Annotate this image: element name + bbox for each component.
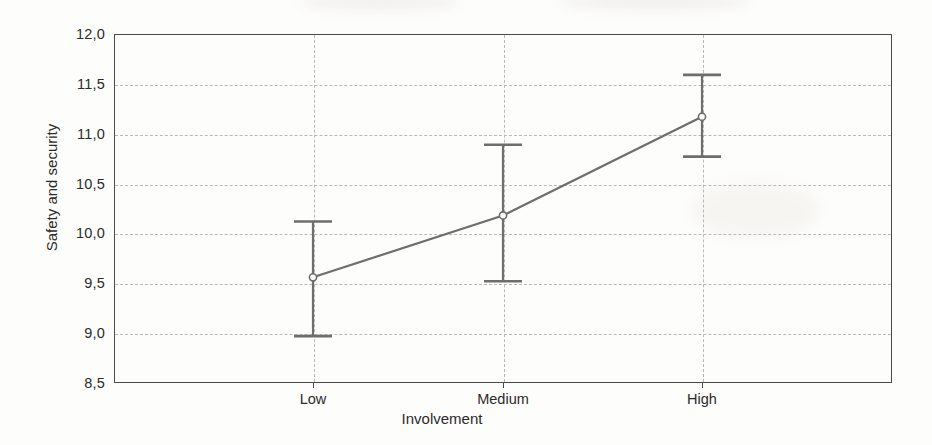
y-axis-tick-label: 11,5 <box>77 76 105 92</box>
gridline-horizontal <box>115 284 891 285</box>
gridline-vertical <box>703 35 704 382</box>
scan-artifact <box>560 0 750 10</box>
x-axis-title: Involvement <box>0 410 932 427</box>
plot-area <box>114 34 892 383</box>
y-axis-tick-label: 9,0 <box>84 325 105 341</box>
x-axis-tick-mark <box>503 383 504 388</box>
scan-artifact <box>300 0 460 10</box>
y-axis-tick-label: 11,0 <box>77 126 105 142</box>
x-axis-tick-mark <box>313 383 314 388</box>
x-axis-title-text: Involvement <box>402 410 483 427</box>
gridline-horizontal <box>115 334 891 335</box>
x-axis-tick-label: High <box>687 391 717 407</box>
gridline-horizontal <box>115 85 891 86</box>
gridline-vertical <box>504 35 505 382</box>
gridline-horizontal <box>115 185 891 186</box>
y-axis-tick-label: 10,5 <box>76 176 105 192</box>
gridline-horizontal <box>115 135 891 136</box>
x-axis-tick-label: Medium <box>477 391 529 407</box>
y-axis-tick-label: 10,0 <box>76 225 105 241</box>
y-axis-tick-label: 8,5 <box>84 375 105 391</box>
x-axis-tick-label: Low <box>300 391 327 407</box>
y-axis-tick-label: 12,0 <box>76 26 105 42</box>
y-axis-tick-labels: 12,011,511,010,510,09,59,08,5 <box>0 34 105 383</box>
gridline-horizontal <box>115 234 891 235</box>
y-axis-tick-label: 9,5 <box>84 275 105 291</box>
gridline-vertical <box>314 35 315 382</box>
chart-figure: Safety and security 12,011,511,010,510,0… <box>0 0 932 445</box>
x-axis-tick-mark <box>702 383 703 388</box>
x-axis-tick-labels: LowMediumHigh <box>0 391 932 411</box>
